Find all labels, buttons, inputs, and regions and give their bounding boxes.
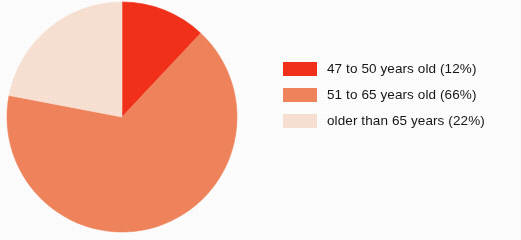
legend-label-47-to-50: 47 to 50 years old (12%) [327,61,476,77]
legend-swatch-icon-47-to-50 [283,62,317,76]
legend-item-older-than-65: older than 65 years (22%) [283,108,521,134]
pie-chart-svg [0,0,260,240]
legend-swatch-icon-51-to-65 [283,88,317,102]
legend-swatch-icon-older-than-65 [283,114,317,128]
pie-slice-group [7,2,237,232]
legend-label-51-to-65: 51 to 65 years old (66%) [327,87,476,103]
pie-chart-figure: 47 to 50 years old (12%) 51 to 65 years … [0,0,521,240]
pie-chart-plot-area [0,0,260,240]
legend-item-51-to-65: 51 to 65 years old (66%) [283,82,521,108]
legend-item-47-to-50: 47 to 50 years old (12%) [283,56,521,82]
legend-label-older-than-65: older than 65 years (22%) [327,113,485,129]
chart-legend: 47 to 50 years old (12%) 51 to 65 years … [283,56,521,134]
